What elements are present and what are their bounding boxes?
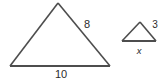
large-triangle-right-side xyxy=(58,3,110,66)
small-triangle-left-side xyxy=(122,22,140,41)
similar-triangles-figure: 8 10 3 x xyxy=(0,0,164,83)
large-triangle-right-side-label: 8 xyxy=(84,18,90,30)
small-triangle-base-label: x xyxy=(136,45,143,56)
large-triangle-left-side xyxy=(10,3,58,66)
figure-canvas: 8 10 3 x xyxy=(0,0,164,83)
small-triangle-right-side-label: 3 xyxy=(152,19,158,30)
large-triangle: 8 10 xyxy=(10,3,110,80)
large-triangle-base-label: 10 xyxy=(55,68,67,80)
small-triangle: 3 x xyxy=(122,19,158,56)
